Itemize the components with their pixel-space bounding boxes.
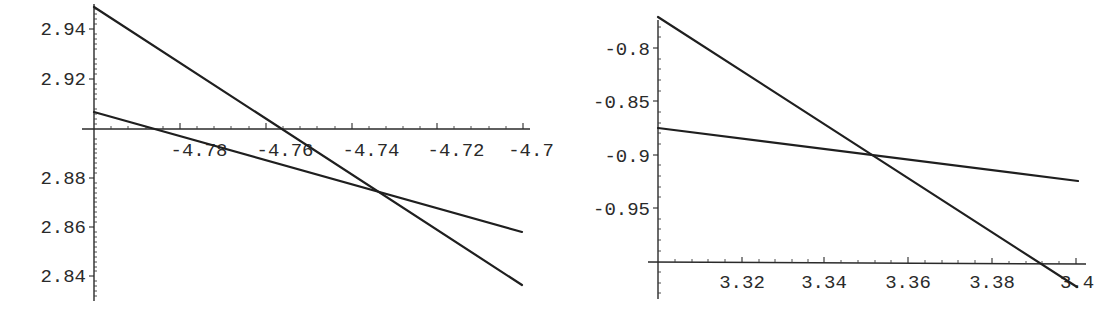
right-y-label-0-8: -0.8 xyxy=(604,39,650,61)
left-x-label-4-74: -4.74 xyxy=(342,140,399,162)
left-y-label-2-94: 2.94 xyxy=(40,19,86,41)
right-series-shallow-line xyxy=(658,128,1078,181)
left-series-shallow-line xyxy=(94,112,522,232)
right-x-axis xyxy=(648,262,1086,264)
left-x-label-4-78: -4.78 xyxy=(170,140,227,162)
left-x-label-4-7: -4.7 xyxy=(508,140,554,162)
left-x-label-4-72: -4.72 xyxy=(427,140,484,162)
left-y-label-2-88: 2.88 xyxy=(40,168,86,190)
right-y-label-0-95: -0.95 xyxy=(593,199,650,221)
right-x-label-3-4: 3.4 xyxy=(1060,272,1094,294)
right-x-label-3-34: 3.34 xyxy=(801,272,847,294)
left-y-label-2-92: 2.92 xyxy=(40,69,86,91)
left-y-ticks xyxy=(89,29,94,276)
right-y-label-0-9: -0.9 xyxy=(604,146,650,168)
right-x-label-3-38: 3.38 xyxy=(969,272,1015,294)
right-y-label-0-85: -0.85 xyxy=(593,92,650,114)
left-chart: 2.94 2.92 2.88 2.86 2.84 -4.78 -4.76 -4.… xyxy=(0,0,556,314)
right-x-label-3-36: 3.36 xyxy=(885,272,931,294)
left-y-label-2-86: 2.86 xyxy=(40,217,86,239)
right-chart: -0.8 -0.85 -0.9 -0.95 3.32 3.34 3.36 3.3… xyxy=(556,0,1112,314)
right-chart-canvas: -0.8 -0.85 -0.9 -0.95 3.32 3.34 3.36 3.3… xyxy=(556,0,1112,314)
left-y-label-2-84: 2.84 xyxy=(40,266,86,288)
right-series-steep-line xyxy=(658,17,1077,287)
right-x-label-3-32: 3.32 xyxy=(719,272,765,294)
left-chart-canvas: 2.94 2.92 2.88 2.86 2.84 -4.78 -4.76 -4.… xyxy=(0,0,556,314)
